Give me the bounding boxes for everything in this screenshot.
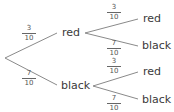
prob-denominator: 10 xyxy=(107,67,121,75)
prob-denominator: 10 xyxy=(107,104,121,112)
prob-red-red: 3 10 xyxy=(107,4,121,21)
prob-denominator: 10 xyxy=(107,49,121,57)
prob-root-red: 3 10 xyxy=(22,25,36,42)
prob-black-black: 7 10 xyxy=(107,95,121,112)
branch-red-red xyxy=(85,19,138,33)
prob-numerator: 3 xyxy=(22,25,36,34)
outcome-level1-black: black xyxy=(61,80,90,92)
prob-denominator: 10 xyxy=(22,34,36,42)
outcome-black-red: red xyxy=(143,66,161,78)
outcome-red-black: black xyxy=(142,40,171,52)
prob-denominator: 10 xyxy=(22,79,36,87)
prob-numerator: 7 xyxy=(22,70,36,79)
prob-red-black: 7 10 xyxy=(107,40,121,57)
prob-numerator: 3 xyxy=(107,4,121,13)
prob-root-black: 7 10 xyxy=(22,70,36,87)
prob-numerator: 3 xyxy=(107,58,121,67)
outcome-black-black: black xyxy=(142,94,171,106)
prob-denominator: 10 xyxy=(107,13,121,21)
outcome-level1-red: red xyxy=(62,27,80,39)
prob-numerator: 7 xyxy=(107,95,121,104)
outcome-red-red: red xyxy=(143,13,161,25)
prob-black-red: 3 10 xyxy=(107,58,121,75)
prob-numerator: 7 xyxy=(107,40,121,49)
